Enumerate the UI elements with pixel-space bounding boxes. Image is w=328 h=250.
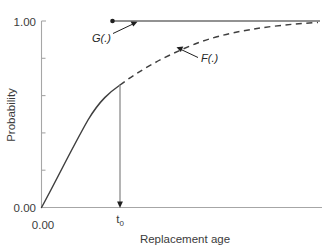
g-curve-start-marker <box>110 19 115 24</box>
g-curve-label: G(.) <box>92 32 111 44</box>
y-axis-tick-label-max: 1.00 <box>14 16 36 28</box>
x-axis-tick-label-min: 0.00 <box>32 219 54 231</box>
chart-background <box>0 0 328 250</box>
y-axis-tick-label-min: 0.00 <box>14 202 36 214</box>
x-axis-title: Replacement age <box>140 233 230 245</box>
chart-svg: G(.) F(.) 1.00 0.00 0.00 t0 Probability … <box>0 0 328 250</box>
probability-curve-chart: G(.) F(.) 1.00 0.00 0.00 t0 Probability … <box>0 0 328 250</box>
t0-label-subscript: 0 <box>119 219 124 228</box>
y-axis-title: Probability <box>5 88 17 142</box>
f-curve-label: F(.) <box>201 52 218 64</box>
